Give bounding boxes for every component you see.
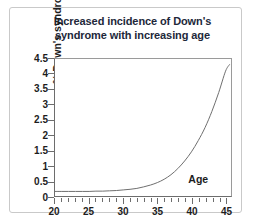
x-axis-major-tick-mark <box>89 198 90 204</box>
x-axis-major-tick-mark <box>54 198 55 204</box>
y-axis-tick-label: 0 <box>18 192 48 203</box>
x-axis-minor-tick-mark <box>178 198 179 202</box>
x-axis-minor-tick-mark <box>130 198 131 202</box>
x-axis-minor-tick-mark <box>151 198 152 202</box>
y-axis-tick-label: 1 <box>18 161 48 172</box>
x-axis-minor-tick-mark <box>68 198 69 202</box>
x-axis-minor-tick-mark <box>213 198 214 202</box>
x-axis-minor-tick-mark <box>171 198 172 202</box>
figure-frame: Increased incidence of Down's syndrome w… <box>9 7 242 213</box>
x-axis-minor-tick-mark <box>164 198 165 202</box>
chart-title: Increased incidence of Down's syndrome w… <box>40 15 225 42</box>
x-axis-minor-tick-mark <box>116 198 117 202</box>
y-axis-tick-label: 3 <box>18 99 48 110</box>
y-axis-tick-label: 3.5 <box>18 83 48 94</box>
x-axis-minor-tick-mark <box>144 198 145 202</box>
x-axis-tick-label: 20 <box>39 206 69 218</box>
x-axis-minor-tick-mark <box>137 198 138 202</box>
chart-title-line-2: syndrome with increasing age <box>40 29 225 43</box>
x-axis-major-tick-mark <box>123 198 124 204</box>
x-axis-minor-tick-mark <box>102 198 103 202</box>
x-axis-tick-label: 35 <box>142 206 172 218</box>
x-axis-major-tick-mark <box>226 198 227 204</box>
x-axis-tick-label: 30 <box>108 206 138 218</box>
y-axis-tick-label: 0.5 <box>18 176 48 187</box>
x-axis-minor-tick-mark <box>75 198 76 202</box>
x-axis-minor-tick-mark <box>185 198 186 202</box>
x-axis-tick-label: 45 <box>211 206 241 218</box>
y-axis-tick-label: 4 <box>18 68 48 79</box>
x-axis-major-tick-mark <box>192 198 193 204</box>
x-axis-tick-labels: 202530354045 <box>10 206 253 220</box>
x-axis-minor-tick-mark <box>199 198 200 202</box>
x-axis-minor-tick-mark <box>82 198 83 202</box>
y-axis-tick-label: 1.5 <box>18 145 48 156</box>
x-axis-tick-marks <box>54 198 233 205</box>
x-axis-minor-tick-mark <box>220 198 221 202</box>
chart-title-line-1: Increased incidence of Down's <box>40 15 225 29</box>
x-axis-major-tick-mark <box>157 198 158 204</box>
age-annotation-label: Age <box>188 173 208 185</box>
y-axis-tick-labels: 00.511.522.533.544.5 <box>18 52 48 203</box>
y-axis-tick-label: 2.5 <box>18 114 48 125</box>
x-axis-minor-tick-mark <box>109 198 110 202</box>
y-axis-tick-label: 2 <box>18 130 48 141</box>
y-axis-tick-label: 4.5 <box>18 53 48 64</box>
x-axis-minor-tick-mark <box>206 198 207 202</box>
x-axis-tick-label: 40 <box>177 206 207 218</box>
x-axis-minor-tick-mark <box>61 198 62 202</box>
x-axis-tick-label: 25 <box>73 206 103 218</box>
x-axis-minor-tick-mark <box>95 198 96 202</box>
